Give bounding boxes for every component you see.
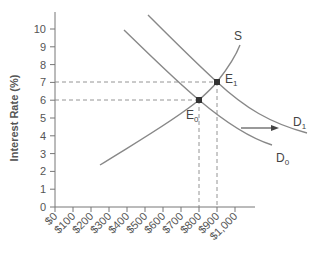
equilibrium-point-e1 xyxy=(214,79,220,85)
label-s: S xyxy=(234,29,242,43)
y-tick-label: 2 xyxy=(40,165,46,177)
y-tick-label: 3 xyxy=(40,148,46,160)
y-tick-label: 6 xyxy=(40,94,46,106)
y-tick-label: 9 xyxy=(40,41,46,53)
supply-curve xyxy=(100,45,240,165)
label-e1: E1 xyxy=(225,72,238,88)
label-e0: E0 xyxy=(186,108,199,124)
equilibrium-point-e0 xyxy=(196,97,202,103)
y-tick-label: 7 xyxy=(40,76,46,88)
x-ticks: $0$100$200$300$400$500$600$700$800$900$1… xyxy=(42,207,239,242)
axes xyxy=(55,12,255,207)
y-tick-label: 1 xyxy=(40,183,46,195)
y-ticks: 012345678910 xyxy=(34,23,55,213)
label-d0: D0 xyxy=(276,151,290,167)
shift-arrow xyxy=(241,125,279,131)
y-axis-label: Interest Rate (%) xyxy=(8,74,20,161)
y-tick-label: 8 xyxy=(40,59,46,71)
y-tick-label: 4 xyxy=(40,130,46,142)
interest-rate-chart: Interest Rate (%) 012345678910 $0$100$20… xyxy=(0,0,321,253)
label-d1: D1 xyxy=(293,115,307,131)
arrow-head-icon xyxy=(271,125,279,131)
y-tick-label: 5 xyxy=(40,112,46,124)
y-tick-label: 10 xyxy=(34,23,46,35)
reference-lines xyxy=(55,82,217,207)
y-tick-label: 0 xyxy=(40,201,46,213)
